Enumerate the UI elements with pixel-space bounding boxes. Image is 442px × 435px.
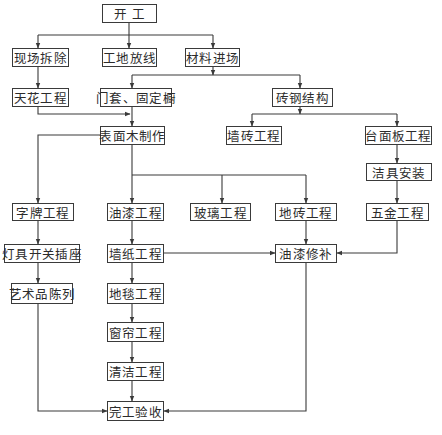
- edge-wood-signage: [38, 135, 100, 203]
- node-start: 开 工: [102, 4, 157, 23]
- node-materials: 材料进场: [185, 48, 240, 67]
- node-doorframe: 门套、固定橱: [100, 88, 172, 107]
- edge-hardware-touchup: [337, 221, 397, 253]
- node-sanitary: 洁具安装: [366, 163, 432, 181]
- node-ceiling: 天花工程: [12, 88, 69, 107]
- node-demolition: 现场拆除: [12, 48, 69, 67]
- node-floor-tile: 地砖工程: [275, 203, 337, 221]
- node-carpet: 地毯工程: [107, 283, 164, 304]
- node-wallpaper: 墙纸工程: [107, 244, 164, 263]
- node-countertop: 台面板工程: [365, 126, 432, 145]
- edge-artwork-acceptance: [38, 304, 107, 411]
- node-layout: 工地放线: [102, 48, 157, 67]
- node-wall-tile: 墙砖工程: [226, 126, 282, 145]
- edge-touchup-acceptance: [164, 263, 306, 411]
- node-cleaning: 清洁工程: [107, 362, 164, 381]
- node-wood-surface: 表面木制作: [100, 126, 165, 145]
- node-paint: 油漆工程: [107, 203, 164, 221]
- node-acceptance: 完工验收: [107, 401, 164, 421]
- node-curtain: 窗帘工程: [107, 322, 164, 342]
- node-hardware: 五金工程: [366, 203, 429, 221]
- node-artwork: 艺术品陈列: [11, 283, 73, 304]
- node-glass: 玻璃工程: [190, 203, 251, 221]
- node-paint-touchup: 油漆修补: [275, 244, 337, 263]
- node-lighting: 灯具开关插座: [4, 244, 80, 263]
- node-signage: 字牌工程: [12, 203, 74, 221]
- node-brick-steel: 砖钢结构: [272, 88, 333, 107]
- edge-ceiling-wood: [38, 107, 130, 114]
